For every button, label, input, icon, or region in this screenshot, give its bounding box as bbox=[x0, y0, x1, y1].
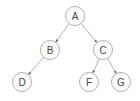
node-label: D bbox=[18, 77, 25, 88]
tree-canvas: ABCDFG bbox=[0, 0, 140, 101]
node-label: B bbox=[47, 45, 54, 56]
edge-c-g bbox=[108, 58, 116, 73]
edge-a-b bbox=[56, 24, 69, 42]
node-label: G bbox=[117, 77, 125, 88]
node-label: F bbox=[86, 77, 92, 88]
tree-diagram: ABCDFG bbox=[0, 0, 140, 101]
node-f: F bbox=[80, 73, 99, 92]
node-c: C bbox=[94, 41, 113, 60]
node-g: G bbox=[112, 73, 131, 92]
edge-b-d bbox=[29, 57, 44, 74]
edge-a-c bbox=[81, 23, 97, 42]
edge-c-f bbox=[93, 59, 99, 73]
nodes: ABCDFG bbox=[13, 7, 131, 92]
node-label: A bbox=[72, 11, 79, 22]
node-d: D bbox=[13, 73, 32, 92]
node-b: B bbox=[41, 41, 60, 60]
node-label: C bbox=[99, 45, 106, 56]
node-a: A bbox=[66, 7, 85, 26]
